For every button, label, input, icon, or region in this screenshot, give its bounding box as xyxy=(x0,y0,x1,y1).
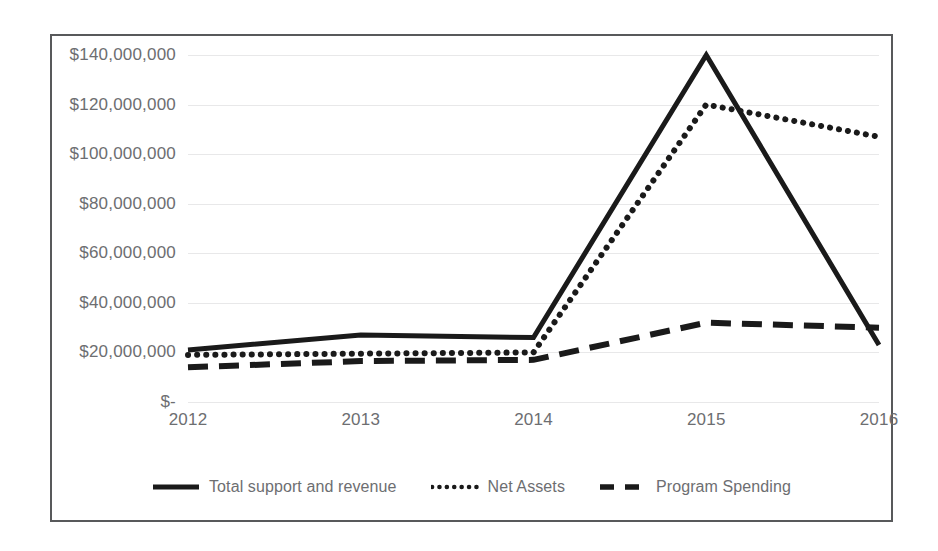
chart-legend: Total support and revenueNet AssetsProgr… xyxy=(52,478,891,496)
chart-frame: $140,000,000$120,000,000$100,000,000$80,… xyxy=(50,34,893,522)
legend-label: Net Assets xyxy=(488,478,565,496)
legend-label: Program Spending xyxy=(656,478,791,496)
legend-item[interactable]: Program Spending xyxy=(599,478,791,496)
legend-item[interactable]: Total support and revenue xyxy=(152,478,397,496)
series-line xyxy=(188,323,879,368)
legend-swatch-solid-icon xyxy=(152,480,200,494)
series-line xyxy=(188,105,879,355)
y-axis-tick-label: $20,000,000 xyxy=(79,342,176,362)
legend-item[interactable]: Net Assets xyxy=(431,478,565,496)
y-axis-tick-label: $60,000,000 xyxy=(79,243,176,263)
y-axis-tick-label: $140,000,000 xyxy=(70,45,176,65)
x-axis-tick-label: 2012 xyxy=(169,410,208,430)
x-axis: 20122013201420152016 xyxy=(188,410,879,434)
chart-plot-wrapper: $140,000,000$120,000,000$100,000,000$80,… xyxy=(52,36,891,520)
y-axis-tick-label: $40,000,000 xyxy=(79,293,176,313)
y-axis-tick-label: $80,000,000 xyxy=(79,194,176,214)
plot-area xyxy=(188,55,879,402)
x-axis-tick-label: 2016 xyxy=(860,410,899,430)
y-axis: $140,000,000$120,000,000$100,000,000$80,… xyxy=(52,36,182,520)
series-line xyxy=(188,55,879,350)
legend-swatch-dashed-icon xyxy=(599,480,647,494)
gridline xyxy=(188,402,879,403)
y-axis-tick-label: $- xyxy=(160,392,176,412)
legend-label: Total support and revenue xyxy=(209,478,397,496)
legend-swatch-dotted-icon xyxy=(431,480,479,494)
series-layer xyxy=(188,55,879,402)
x-axis-tick-label: 2015 xyxy=(687,410,726,430)
y-axis-tick-label: $100,000,000 xyxy=(70,144,176,164)
y-axis-tick-label: $120,000,000 xyxy=(70,95,176,115)
x-axis-tick-label: 2014 xyxy=(514,410,553,430)
x-axis-tick-label: 2013 xyxy=(341,410,380,430)
